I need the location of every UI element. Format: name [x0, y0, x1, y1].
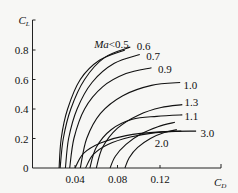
y-tick-label: 0.8: [15, 44, 29, 56]
y-axis-title: CL: [19, 14, 30, 28]
x-tick-label: 0.08: [108, 173, 128, 185]
y-tick-label: 0: [23, 162, 29, 174]
curve-1-3: [96, 105, 182, 168]
curve-ma-0-5: [59, 50, 125, 168]
y-tick-label: 0.4: [15, 103, 29, 115]
curve-2-0-label: 2.0: [155, 137, 169, 149]
lift-drag-polar-chart: 00.20.40.60.80.040.080.12CLCD Ma<0.50.60…: [0, 0, 238, 193]
curve-1-0-label: 1.0: [183, 79, 197, 91]
curve-3-0-label: 3.0: [200, 127, 214, 139]
curve-1-3-label: 1.3: [184, 96, 198, 108]
y-tick-label: 0.2: [15, 133, 29, 145]
chart-svg: 00.20.40.60.80.040.080.12CLCD Ma<0.50.60…: [0, 0, 238, 193]
curve-1-1-label: 1.1: [184, 110, 198, 122]
x-tick-label: 0.04: [65, 173, 85, 185]
curve-unlabeled-b: [125, 130, 177, 168]
curve-0-7-label: 0.7: [146, 50, 160, 62]
y-tick-label: 0.6: [15, 74, 29, 86]
x-tick-label: 0.12: [150, 173, 169, 185]
curve-ma-0-5-label: Ma<0.5: [93, 38, 129, 50]
curve-0-9-label: 0.9: [158, 63, 172, 75]
x-axis-title: CD: [214, 176, 226, 190]
curves: [59, 47, 196, 168]
